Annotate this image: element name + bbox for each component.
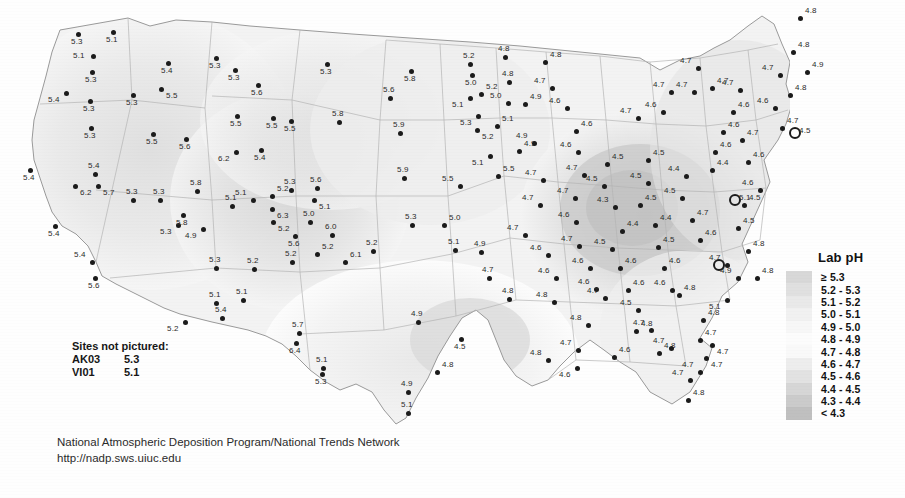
- site-ph-value: 5.4: [161, 67, 173, 75]
- site-dot-icon: [791, 50, 796, 55]
- site-dot-icon: [475, 128, 480, 133]
- site-dot-icon: [325, 62, 330, 67]
- site-ph-value: 5.9: [393, 121, 405, 129]
- legend-row: 4.6 - 4.7: [786, 358, 901, 370]
- site-ph-value: 4.5: [653, 149, 665, 157]
- site-dot-icon: [315, 252, 320, 257]
- legend-row: 4.5 - 4.6: [786, 370, 901, 382]
- site-ph-value: 4.6: [530, 244, 542, 252]
- site-ph-value: 4.3: [597, 196, 609, 204]
- site-ph-value: 5.8: [332, 110, 344, 118]
- site-ph-value: 4.8: [684, 284, 696, 292]
- site-dot-icon: [798, 16, 803, 21]
- site-dot-icon: [746, 160, 751, 165]
- site-dot-icon: [721, 130, 726, 135]
- site-ph-value: 4.6: [738, 101, 750, 109]
- site-dot-icon: [653, 223, 658, 228]
- site-dot-icon: [780, 126, 785, 131]
- site-ph-value: 5.0: [490, 92, 502, 100]
- footer-url[interactable]: http://nadp.sws.uiuc.edu: [57, 450, 400, 466]
- site-ph-value: 4.8: [693, 389, 705, 397]
- site-ph-value: 4.8: [570, 314, 582, 322]
- site-dot-icon: [554, 276, 559, 281]
- site-ph-value: 5.2: [278, 225, 290, 233]
- site-dot-icon: [343, 260, 348, 265]
- legend-label: 4.6 - 4.7: [821, 358, 860, 370]
- site-ph-value: 5.3: [71, 38, 83, 46]
- site-dot-icon: [184, 137, 189, 142]
- site-dot-icon: [636, 116, 641, 121]
- legend-row: 5.2 - 5.3: [786, 283, 901, 295]
- site-dot-icon: [758, 188, 763, 193]
- site-dot-icon: [90, 260, 95, 265]
- legend-swatch: [786, 370, 812, 382]
- site-dot-icon: [662, 266, 667, 271]
- site-ph-value: 5.5: [266, 122, 278, 130]
- site-ph-value: 4.7: [682, 361, 694, 369]
- us-map: 5.35.15.15.35.45.35.55.45.35.35.35.65.35…: [0, 0, 790, 440]
- site-ph-value: 4.6: [619, 346, 631, 354]
- site-dot-icon: [618, 266, 623, 271]
- site-dot-icon: [214, 56, 219, 61]
- site-dot-icon: [698, 338, 703, 343]
- site-ph-value: 4.8: [762, 267, 774, 275]
- site-ph-value: 4.6: [538, 267, 550, 275]
- site-ph-value: 4.6: [581, 120, 593, 128]
- legend-swatch: [786, 383, 812, 395]
- site-dot-icon: [577, 244, 582, 249]
- site-ph-value: 4.4: [717, 159, 729, 167]
- site-dot-icon: [710, 343, 715, 348]
- site-ph-value: 4.7: [747, 129, 759, 137]
- site-dot-icon: [252, 267, 257, 272]
- site-code: VI01: [72, 366, 124, 379]
- site-ph-value: 5.3: [126, 99, 138, 107]
- site-ph-value: 4.6: [645, 101, 657, 109]
- site-ph-value: 5.2: [285, 250, 297, 258]
- site-ph-value: 5.5: [284, 125, 296, 133]
- site-dot-icon: [90, 70, 95, 75]
- legend-row: 4.7 - 4.8: [786, 345, 901, 357]
- legend-label: 5.2 - 5.3: [821, 284, 860, 296]
- site-ph-value: 5.0: [303, 210, 315, 218]
- site-dot-icon: [233, 68, 238, 73]
- site-dot-icon: [532, 141, 537, 146]
- map-figure: 5.35.15.15.35.45.35.55.45.35.35.35.65.35…: [0, 0, 905, 498]
- site-dot-icon: [692, 90, 697, 95]
- site-dot-icon: [402, 176, 407, 181]
- site-dot-icon: [613, 205, 618, 210]
- site-dot-icon: [696, 66, 701, 71]
- site-ph-value: 5.4: [254, 154, 266, 162]
- site-ph-value: 4.6: [625, 257, 637, 265]
- site-dot-icon: [669, 90, 674, 95]
- site-ph-value: 4.4: [627, 220, 639, 228]
- site-dot-icon: [270, 194, 275, 199]
- site-dot-icon: [657, 351, 662, 356]
- site-not-pictured-row: AK035.3: [72, 353, 169, 366]
- site-dot-icon: [506, 101, 511, 106]
- site-dot-icon: [321, 366, 326, 371]
- legend-label: 4.8 - 4.9: [821, 333, 860, 345]
- site-dot-icon: [602, 184, 607, 189]
- site-ph-value: 6.2: [218, 155, 230, 163]
- site-dot-icon: [677, 293, 682, 298]
- site-dot-icon: [131, 93, 136, 98]
- site-ph-value: 4.7: [620, 107, 632, 115]
- footer: National Atmospheric Deposition Program/…: [57, 434, 400, 466]
- site-ph-value: 4.8: [798, 41, 810, 49]
- site-ph-value: 5.3: [320, 68, 332, 76]
- legend-swatch: [786, 358, 812, 370]
- site-ph-value: 4.7: [587, 287, 599, 295]
- legend-label: 4.9 - 5.0: [821, 321, 860, 333]
- site-dot-icon: [576, 348, 581, 353]
- site-dot-icon: [634, 329, 639, 334]
- site-ph-value: 4.7: [680, 57, 692, 65]
- sites-not-pictured-heading: Sites not pictured:: [72, 340, 169, 353]
- legend-label: < 4.3: [821, 407, 845, 419]
- site-dot-icon: [297, 331, 302, 336]
- site-ph-value: 5.5: [442, 175, 454, 183]
- site-ph-value: 4.9: [474, 240, 486, 248]
- site-dot-icon: [487, 276, 492, 281]
- site-dot-icon: [698, 238, 703, 243]
- site-ph-value: 4.6: [633, 279, 645, 287]
- site-ph-value: 4.7: [717, 348, 729, 356]
